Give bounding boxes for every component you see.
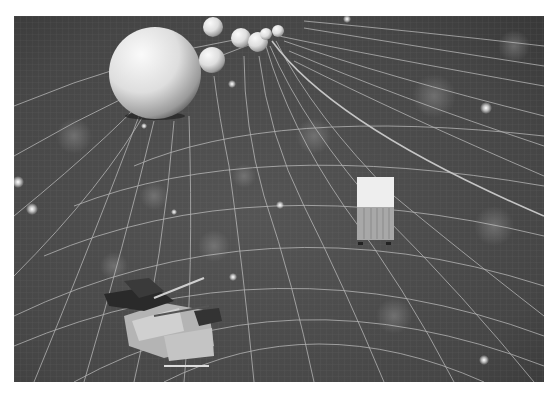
- large-sphere: [109, 27, 201, 119]
- spacetime-grid-render: [14, 16, 544, 382]
- small-sphere: [231, 28, 251, 48]
- small-sphere: [272, 25, 284, 37]
- small-sphere: [203, 17, 223, 37]
- cargo-container: [357, 177, 394, 245]
- small-sphere: [199, 47, 225, 73]
- render-scene: [14, 16, 544, 382]
- small-sphere: [260, 28, 272, 40]
